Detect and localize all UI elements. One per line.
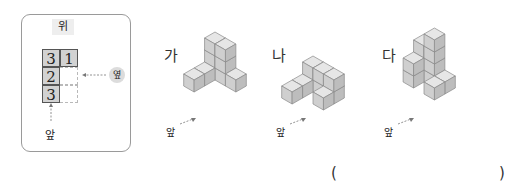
front-view-label: 앞 — [45, 126, 55, 142]
arrow-icon — [178, 116, 198, 126]
front-label-na: 앞 — [276, 124, 285, 139]
arrow-icons — [22, 15, 130, 151]
answer-close-paren: ) — [499, 164, 505, 182]
side-view-label: 옆 — [109, 67, 125, 83]
answer-blank[interactable] — [340, 164, 495, 184]
front-label-ga: 앞 — [166, 124, 175, 139]
arrow-icon — [288, 116, 308, 126]
arrow-icon — [396, 116, 416, 126]
reference-panel: 위 3 1 2 3 옆 앞 — [21, 14, 131, 152]
answer-open-paren: ( — [331, 164, 337, 182]
figure-label-na: 나 — [272, 44, 286, 65]
front-label-da: 앞 — [384, 124, 393, 139]
